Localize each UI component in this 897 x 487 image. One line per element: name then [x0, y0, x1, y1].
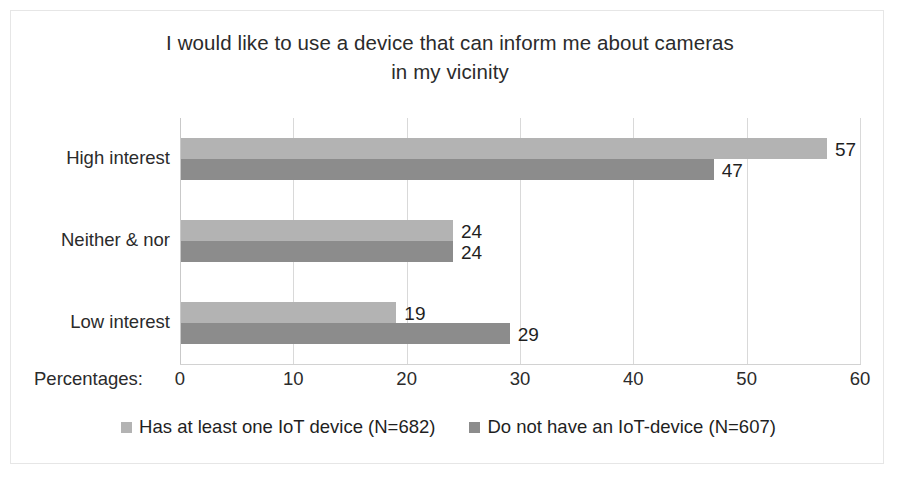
- legend-item[interactable]: Do not have an IoT-device (N=607): [469, 416, 775, 438]
- chart-figure: I would like to use a device that can in…: [0, 0, 897, 487]
- legend-label: Has at least one IoT device (N=682): [139, 416, 435, 438]
- legend-label: Do not have an IoT-device (N=607): [487, 416, 775, 438]
- x-tick-label: 0: [150, 368, 210, 390]
- x-tick-label: 10: [263, 368, 323, 390]
- bar: [181, 241, 453, 262]
- category-axis-baseline: [180, 364, 861, 365]
- bar-value-label: 24: [461, 242, 482, 263]
- bar: [181, 159, 714, 180]
- category-label: Neither & nor: [10, 229, 170, 251]
- legend-item[interactable]: Has at least one IoT device (N=682): [121, 416, 435, 438]
- chart-title-line-2: in my vicinity: [60, 57, 840, 86]
- bar-value-label: 19: [404, 303, 425, 324]
- legend-swatch-icon: [121, 422, 132, 433]
- x-axis-title: Percentages:: [34, 368, 143, 390]
- legend-swatch-icon: [469, 422, 480, 433]
- x-tick-label: 60: [830, 368, 890, 390]
- bar-value-label: 57: [835, 139, 856, 160]
- category-axis-labels: High interestNeither & norLow interest: [10, 118, 170, 364]
- value-axis: Percentages: 0102030405060: [0, 368, 897, 398]
- category-label: Low interest: [10, 311, 170, 333]
- plot-area: 574724241929: [180, 118, 860, 364]
- x-tick-label: 20: [377, 368, 437, 390]
- bar: [181, 138, 827, 159]
- bar: [181, 302, 396, 323]
- bar-value-label: 24: [461, 221, 482, 242]
- x-tick-label: 30: [490, 368, 550, 390]
- x-tick-label: 40: [603, 368, 663, 390]
- x-tick-label: 50: [717, 368, 777, 390]
- chart-title: I would like to use a device that can in…: [60, 28, 840, 86]
- bar: [181, 220, 453, 241]
- bar-value-label: 47: [722, 160, 743, 181]
- chart-legend: Has at least one IoT device (N=682)Do no…: [0, 412, 897, 442]
- category-label: High interest: [10, 147, 170, 169]
- gridline: [860, 118, 861, 364]
- chart-title-line-1: I would like to use a device that can in…: [60, 28, 840, 57]
- bar-value-label: 29: [518, 324, 539, 345]
- bar: [181, 323, 510, 344]
